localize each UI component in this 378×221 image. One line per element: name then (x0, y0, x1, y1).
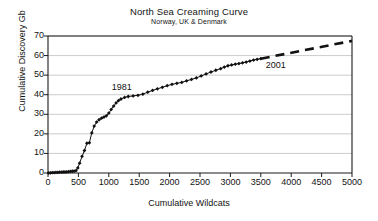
data-point-marker (255, 57, 259, 61)
data-point-marker (226, 64, 230, 68)
tick-marks (44, 36, 352, 177)
data-point-marker (175, 81, 179, 85)
data-point-marker (214, 68, 218, 72)
data-point-marker (222, 65, 226, 69)
data-point-marker (209, 70, 213, 74)
data-series (47, 41, 352, 175)
data-point-marker (252, 58, 256, 62)
data-point-marker (156, 87, 160, 91)
grid-lines (48, 36, 352, 153)
data-point-marker (87, 141, 91, 145)
data-point-marker (80, 154, 84, 158)
series-line-extrapolation (261, 41, 352, 59)
data-point-marker (78, 161, 82, 165)
data-point-marker (146, 90, 150, 94)
data-point-marker (185, 79, 189, 83)
data-point-marker (233, 62, 237, 66)
data-point-marker (123, 96, 127, 100)
data-point-marker (126, 95, 130, 99)
data-point-marker (199, 74, 203, 78)
data-point-marker (248, 59, 252, 63)
data-point-marker (237, 62, 241, 66)
axis-frame (48, 36, 352, 173)
data-point-marker (230, 63, 234, 67)
data-point-marker (151, 89, 155, 93)
data-point-marker (180, 80, 184, 84)
data-point-marker (136, 93, 140, 97)
data-point-marker (241, 61, 245, 65)
plot-area (0, 0, 378, 221)
chart-figure: North Sea Creaming Curve Norway, UK & De… (0, 0, 378, 221)
series-line-historic (49, 59, 261, 173)
data-point-marker (194, 76, 198, 80)
data-point-marker (219, 67, 223, 71)
data-point-marker (170, 82, 174, 86)
data-point-marker (141, 92, 145, 96)
data-point-marker (190, 78, 194, 82)
data-point-marker (165, 84, 169, 88)
data-point-marker (244, 60, 248, 64)
data-point-marker (160, 85, 164, 89)
data-point-marker (83, 149, 87, 153)
